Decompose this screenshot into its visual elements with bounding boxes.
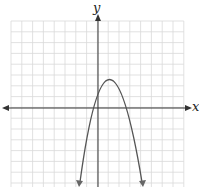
x-axis-right-arrow-icon bbox=[185, 105, 192, 111]
curve-left-arrow-icon bbox=[76, 180, 83, 187]
parabola-curve bbox=[80, 80, 142, 183]
curve-right-arrow-icon bbox=[139, 180, 146, 187]
grid-lines bbox=[11, 21, 184, 187]
y-axis-up-arrow-icon bbox=[95, 14, 101, 21]
x-axis-left-arrow-icon bbox=[2, 105, 9, 111]
x-axis-label: x bbox=[192, 99, 199, 114]
coordinate-plane bbox=[0, 0, 199, 187]
y-axis-label: y bbox=[93, 0, 100, 15]
